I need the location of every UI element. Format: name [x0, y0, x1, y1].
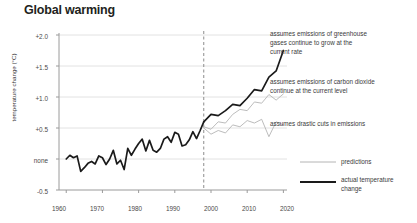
axis-lines — [56, 33, 287, 193]
annotation-drastic-cuts: assumes drastic cuts in emissions — [270, 120, 417, 129]
annotation-constant-emissions: assumes emissions of carbon dioxide cont… — [270, 78, 417, 96]
gridlines — [59, 35, 287, 159]
data-series-layer — [66, 51, 283, 172]
legend-label-predictions: predictions — [341, 158, 371, 167]
legend-label-actual: actual temperature change — [341, 176, 394, 194]
annotation-high-emissions: assumes emissions of greenhouse gases co… — [270, 30, 417, 57]
chart-container: Global warming temperature change (°C) +… — [0, 0, 417, 223]
legend-swatches — [300, 162, 336, 182]
